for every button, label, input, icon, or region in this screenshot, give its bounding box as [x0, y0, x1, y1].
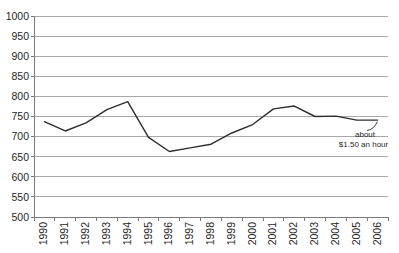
x-axis-label: 2004	[329, 222, 341, 246]
y-axis-label: 500	[11, 211, 29, 223]
x-axis-label: 1996	[162, 222, 174, 246]
axes-group	[31, 16, 389, 221]
y-axis-label: 800	[11, 90, 29, 102]
x-axis-label: 2001	[266, 222, 278, 246]
x-axis-label: 1995	[142, 222, 154, 246]
y-axis-label: 1000	[6, 10, 30, 22]
y-axis-label: 900	[11, 50, 29, 62]
x-axis-label: 1997	[183, 222, 195, 246]
chart-container: 5005506006507007508008509009501000199019…	[0, 0, 399, 253]
x-axis-label: 1992	[79, 222, 91, 246]
y-axis-label: 600	[11, 171, 29, 183]
data-series-line	[44, 102, 377, 152]
gridlines-group	[34, 16, 388, 197]
x-axis-label: 2006	[371, 222, 383, 246]
line-chart-canvas: 5005506006507007508008509009501000199019…	[0, 0, 399, 253]
data-series-group	[44, 102, 377, 152]
x-axis-label: 1994	[121, 222, 133, 246]
x-axis-label: 2003	[308, 222, 320, 246]
x-axis-label: 1990	[37, 222, 49, 246]
x-axis-label: 1993	[100, 222, 112, 246]
x-axis-label: 1998	[204, 222, 216, 246]
y-axis-label: 650	[11, 151, 29, 163]
x-axis-label: 2002	[287, 222, 299, 246]
axis-labels-group: 5005506006507007508008509009501000199019…	[6, 10, 383, 246]
x-axis-label: 1999	[225, 222, 237, 246]
x-axis-label: 1991	[58, 222, 70, 246]
y-axis-label: 550	[11, 191, 29, 203]
y-axis-label: 750	[11, 110, 29, 122]
annotation: about $1.50 an hour	[339, 122, 389, 149]
x-axis-label: 2005	[350, 222, 362, 246]
x-axis-label: 2000	[246, 222, 258, 246]
y-axis-label: 700	[11, 130, 29, 142]
annotation-text-line1: about	[355, 130, 376, 139]
y-axis-label: 950	[11, 30, 29, 42]
annotation-text-line2: $1.50 an hour	[339, 140, 389, 149]
y-axis-label: 850	[11, 70, 29, 82]
